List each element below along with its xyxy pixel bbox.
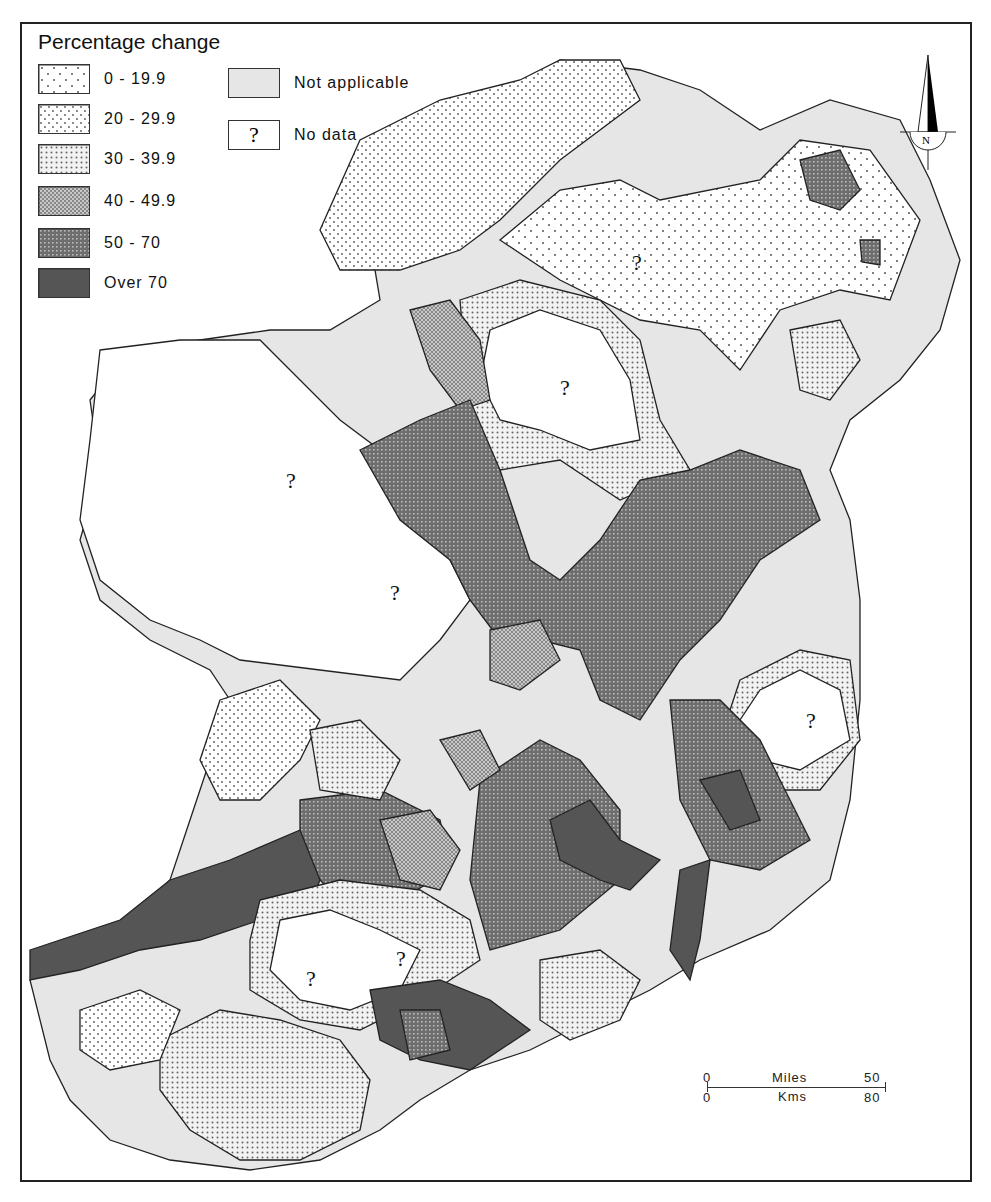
ireland-map xyxy=(0,0,991,1202)
legend-item-not-applicable: Not applicable xyxy=(228,68,409,98)
legend-item: 30 - 39.9 xyxy=(38,144,176,174)
legend-swatch xyxy=(38,268,90,298)
scale-bar: 0 Miles 50 0 Kms 80 xyxy=(700,1070,885,1110)
legend-item: 0 - 19.9 xyxy=(38,64,166,94)
no-data-mark: ? xyxy=(306,966,316,992)
legend-swatch xyxy=(228,68,280,98)
legend-title: Percentage change xyxy=(38,30,220,54)
legend-swatch xyxy=(38,144,90,174)
legend-item: 50 - 70 xyxy=(38,228,161,258)
legend-item: 20 - 29.9 xyxy=(38,104,176,134)
no-data-mark: ? xyxy=(560,375,570,401)
legend-swatch xyxy=(38,104,90,134)
legend-item: Over 70 xyxy=(38,268,168,298)
legend-swatch xyxy=(38,228,90,258)
no-data-mark: ? xyxy=(806,708,816,734)
no-data-mark: ? xyxy=(286,468,296,494)
legend-item: 40 - 49.9 xyxy=(38,186,176,216)
legend-swatch xyxy=(38,64,90,94)
no-data-mark: ? xyxy=(632,250,642,276)
no-data-mark: ? xyxy=(390,580,400,606)
legend-swatch: ? xyxy=(228,120,280,150)
scale-line xyxy=(707,1087,885,1088)
north-label: N xyxy=(922,134,930,146)
legend-swatch xyxy=(38,186,90,216)
no-data-mark: ? xyxy=(396,946,406,972)
north-arrow: N xyxy=(898,50,958,175)
legend-item-no-data: ? No data xyxy=(228,120,357,150)
north-arrow-icon xyxy=(898,50,958,175)
